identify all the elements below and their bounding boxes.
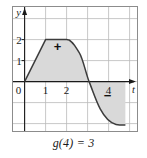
y-tick-label-1: 1: [16, 55, 22, 67]
figure-container: + − 2 1 0 1 2 4 y t g(4) = 3: [0, 0, 147, 158]
y-axis-label: y: [15, 7, 21, 18]
positive-region-marker: +: [54, 39, 62, 54]
x-tick-label-2: 2: [64, 84, 70, 96]
origin-label: 0: [16, 84, 22, 96]
graph-svg: + − 2 1 0 1 2 4 y t: [12, 6, 138, 132]
figure-caption: g(4) = 3: [0, 136, 147, 151]
x-tick-label-4: 4: [106, 84, 112, 96]
x-tick-label-1: 1: [43, 84, 49, 96]
plot-area: + − 2 1 0 1 2 4 y t: [12, 6, 138, 132]
y-tick-label-2: 2: [16, 34, 22, 46]
